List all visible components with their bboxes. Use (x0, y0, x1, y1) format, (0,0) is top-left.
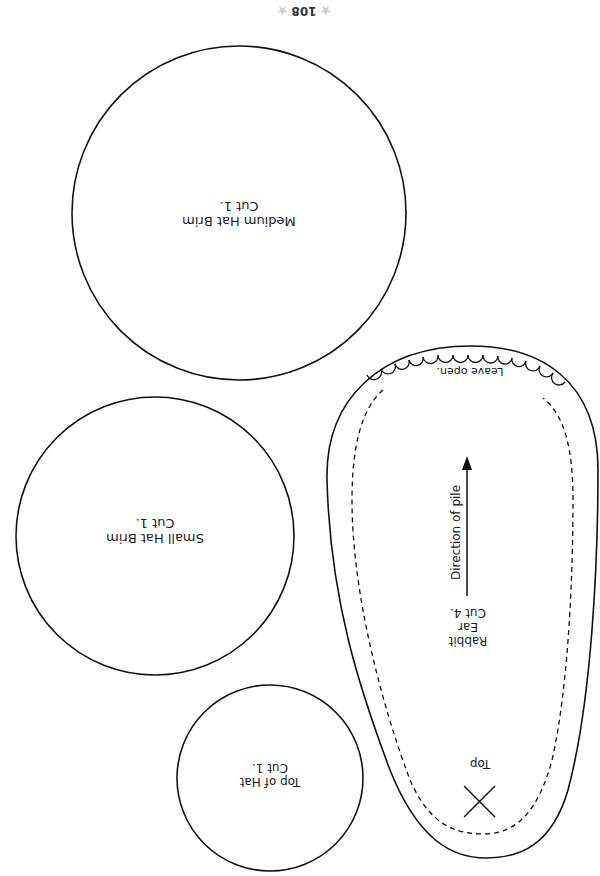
cut-instruction: Cut 1. (95, 515, 215, 530)
piece-name-line1: Rabbit (433, 634, 503, 648)
piece-name: Small Hat Brim (95, 530, 215, 545)
cut-instruction: Cut 4. (433, 606, 503, 620)
piece-name-line2: Ear (433, 620, 503, 634)
small-hat-brim-label: Small Hat Brim Cut 1. (95, 515, 215, 545)
rabbit-ear-label: Rabbit Ear Cut 4. (433, 606, 503, 647)
pattern-sheet (0, 0, 600, 876)
direction-of-pile-arrow (462, 456, 472, 596)
rabbit-ear-cut-line (327, 346, 598, 858)
x-mark-icon (464, 786, 495, 817)
leave-open-label: Leave open. (425, 364, 515, 377)
piece-name: Medium Hat Brim (169, 213, 309, 228)
cut-instruction: Cut 1. (169, 198, 309, 213)
cut-instruction: Cut 1. (225, 760, 315, 774)
top-marker-label: Top (465, 756, 495, 770)
top-of-hat-label: Top of Hat Cut 1. (225, 760, 315, 788)
direction-of-pile-label: Direction of pile (449, 485, 463, 580)
medium-hat-brim-label: Medium Hat Brim Cut 1. (169, 198, 309, 228)
piece-name: Top of Hat (225, 774, 315, 788)
